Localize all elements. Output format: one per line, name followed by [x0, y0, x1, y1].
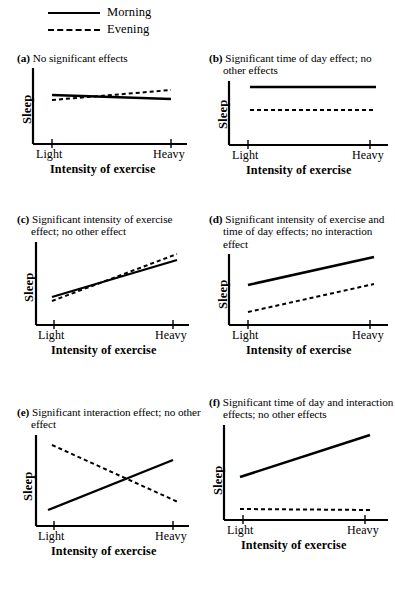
panel-f-series-morning	[240, 435, 370, 477]
panel-f-title-line-3: effects	[297, 408, 326, 420]
panel-e-xtick-label-light: Light	[38, 529, 65, 544]
legend-item-evening: Evening	[48, 21, 228, 38]
panel-c-title-line-2: effect; no other effect	[31, 225, 126, 237]
panel-d-title-line-1: Significant intensity of	[225, 213, 326, 225]
panel-d-xtick-label-heavy: Heavy	[352, 328, 384, 343]
panel-d-series-morning	[248, 257, 374, 285]
panel-d-letter: (d)	[209, 213, 223, 225]
legend-label-evening: Evening	[107, 23, 149, 36]
legend-item-morning: Morning	[48, 4, 228, 21]
panel-f-xtick-label-light: Light	[227, 523, 254, 538]
panel-a-letter: (a)	[17, 52, 30, 64]
panel-a-xtick-label-light: Light	[36, 147, 63, 162]
panel-b-letter: (b)	[209, 52, 223, 64]
panel-e-title: (e) Significant interaction effect; no o…	[6, 406, 203, 431]
panel-a-xtick-label-heavy: Heavy	[153, 147, 185, 162]
panel-f: (f) Significant time of day and interact…	[198, 396, 395, 423]
panel-c-xtick-label-light: Light	[38, 328, 65, 343]
legend: Morning Evening	[48, 4, 228, 38]
panel-e-xtick-label-heavy: Heavy	[155, 529, 187, 544]
panel-d-y-label: Sleep	[216, 280, 231, 309]
panel-c-x-label: Intensity of exercise	[51, 343, 156, 358]
panel-d-series-evening	[248, 284, 374, 312]
panel-c-xtick-label-heavy: Heavy	[155, 328, 187, 343]
legend-label-morning: Morning	[107, 6, 151, 19]
panel-f-xtick-label-heavy: Heavy	[347, 523, 379, 538]
panel-c-title-line-1: Significant intensity of exercise	[32, 213, 172, 225]
panel-d-x-label: Intensity of exercise	[246, 343, 351, 358]
panel-e: (e) Significant interaction effect; no o…	[6, 406, 203, 433]
panel-e-letter: (e)	[17, 406, 29, 418]
panel-b-xtick-label-light: Light	[232, 148, 259, 163]
panel-c-title: (c) Significant intensity of exercise ef…	[6, 213, 203, 238]
panel-a: (a) No significant effects Sleep Light H…	[6, 52, 203, 66]
panel-c-y-label: Sleep	[22, 272, 37, 301]
figure-root: Morning Evening (a) No significant effec…	[0, 0, 395, 597]
panel-f-letter: (f)	[209, 396, 220, 408]
panel-e-series-morning	[48, 460, 173, 510]
panel-d-title: (d) Significant intensity of exercise an…	[198, 213, 395, 250]
panel-a-title-line-1: No significant effects	[33, 52, 128, 64]
panel-f-title-line-1: Significant time of day and	[223, 396, 343, 408]
panel-e-series-evening	[52, 445, 178, 502]
panel-b-title-line-1: Significant time of day effect;	[225, 52, 357, 64]
panel-c-series-evening	[52, 254, 177, 301]
panel-e-x-label: Intensity of exercise	[51, 544, 156, 559]
panel-b-xtick-label-heavy: Heavy	[352, 148, 384, 163]
panel-f-title: (f) Significant time of day and interact…	[198, 396, 395, 421]
panel-f-x-label: Intensity of exercise	[241, 538, 346, 553]
solid-line-swatch-icon	[48, 8, 100, 18]
panel-b-y-label: Sleep	[216, 99, 231, 128]
panel-a-x-label: Intensity of exercise	[50, 162, 155, 177]
panel-a-y-label: Sleep	[20, 95, 35, 124]
panel-a-title: (a) No significant effects	[6, 52, 203, 64]
panel-c-letter: (c)	[17, 213, 29, 225]
panel-c: (c) Significant intensity of exercise ef…	[6, 213, 203, 240]
panel-b-title: (b) Significant time of day effect; no o…	[198, 52, 395, 77]
panel-b-x-label: Intensity of exercise	[246, 163, 351, 178]
dashed-line-swatch-icon	[48, 25, 100, 35]
panel-e-title-line-1: Significant interaction effect;	[32, 406, 161, 418]
panel-f-series-evening	[240, 509, 370, 510]
panel-f-y-label: Sleep	[211, 465, 226, 494]
panel-e-y-label: Sleep	[21, 471, 36, 500]
panel-d: (d) Significant intensity of exercise an…	[198, 213, 395, 252]
panel-b: (b) Significant time of day effect; no o…	[198, 52, 395, 79]
panel-d-xtick-label-light: Light	[232, 328, 259, 343]
